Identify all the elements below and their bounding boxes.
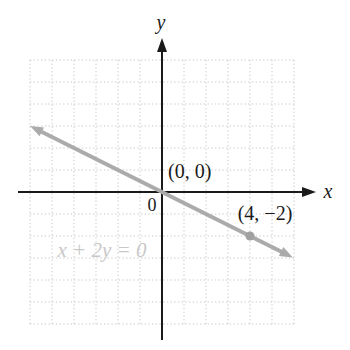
point-label-4-neg2: (4, −2) [238,202,293,225]
graph-line-arrow-end-icon [279,247,293,257]
plot-layer [18,38,316,340]
graph-line-arrow-start-icon [30,126,44,136]
x-axis-arrow-icon [302,187,316,197]
x-axis-label: x [323,180,333,202]
origin-label: 0 [148,195,157,215]
point-marker [246,232,255,241]
point-label-origin: (0, 0) [168,160,211,183]
y-axis-arrow-icon [157,38,167,52]
equation-label: x + 2y = 0 [57,238,147,262]
y-axis-label: y [155,11,166,34]
graph-canvas: y x 0 (0, 0) (4, −2) x + 2y = 0 [0,0,350,350]
line-graph: y x 0 (0, 0) (4, −2) x + 2y = 0 [0,0,350,350]
